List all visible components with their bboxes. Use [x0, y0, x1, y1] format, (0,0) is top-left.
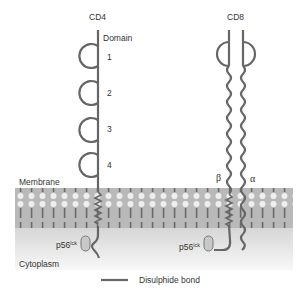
legend-disulphide-label: Disulphide bond: [139, 276, 200, 285]
cd4-domain-1-number: 1: [107, 53, 112, 62]
cd8-alpha-chain-label: α: [250, 174, 255, 184]
cd4-label: CD4: [89, 13, 106, 22]
cd4-domain-2-loop: [79, 81, 98, 105]
cd4-p56lck-base: p56: [56, 240, 70, 250]
cd4-domain-4-loop: [79, 153, 98, 177]
diagram-canvas: [0, 0, 308, 297]
cd8-beta-chain-label: β: [216, 173, 221, 183]
cd8-label: CD8: [227, 13, 244, 22]
cd8-beta-domain-loop: [217, 42, 229, 66]
cd8-alpha-domain-loop: [243, 42, 255, 66]
cd4-domain-2-number: 2: [107, 89, 112, 98]
membrane-bilayer: [15, 188, 293, 228]
cd4-p56lck-label: p56lck: [56, 241, 77, 250]
membrane-label: Membrane: [19, 178, 60, 187]
cd4-p56lck-kinase: [81, 236, 90, 251]
cd4-domain-1-loop: [79, 44, 98, 68]
cd8-p56lck-sup: lck: [193, 242, 200, 248]
cd8-beta-wavy-stalk: [227, 66, 231, 194]
cd4-domain-3-number: 3: [107, 125, 112, 134]
cd8-p56lck-kinase: [204, 236, 213, 251]
cd4-domain-4-number: 4: [107, 161, 112, 170]
cd8-p56lck-base: p56: [179, 242, 193, 252]
cd4-domain-3-loop: [79, 118, 98, 142]
cd4-p56lck-sup: lck: [70, 240, 77, 246]
cd4-domain-heading: Domain: [103, 34, 132, 43]
cytoplasm-label: Cytoplasm: [19, 260, 59, 269]
cd8-p56lck-label: p56lck: [179, 243, 200, 252]
